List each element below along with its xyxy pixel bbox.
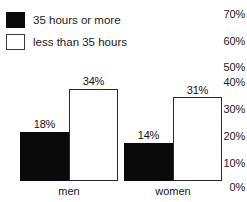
legend-label-35-hours-or-more: 35 hours or more [33, 14, 121, 27]
y-tick-60: 60% [211, 35, 245, 47]
bar-chart-figure: 70% 60% 50% 40% 30% 20% 10% 0% 18% 34% 1… [0, 0, 247, 202]
top-edge-artifact [0, 0, 247, 5]
bar-value-women-dark: 14% [124, 129, 173, 141]
legend-item-less-than-35-hours: less than 35 hours [6, 31, 196, 53]
bar-value-women-light: 31% [173, 84, 222, 96]
bar-men-less-than-35-hours [69, 89, 118, 181]
legend: 35 hours or more less than 35 hours [6, 9, 196, 53]
legend-label-less-than-35-hours: less than 35 hours [33, 36, 127, 49]
y-tick-70: 70% [211, 8, 245, 20]
bar-men-35-hours-or-more [20, 132, 69, 181]
bar-value-men-dark: 18% [20, 118, 69, 130]
bar-value-men-light: 34% [69, 75, 118, 87]
y-tick-50: 50% [211, 61, 245, 73]
x-label-women: women [124, 185, 222, 198]
legend-swatch-dark-icon [6, 12, 25, 28]
legend-swatch-light-icon [6, 34, 25, 50]
legend-item-35-hours-or-more: 35 hours or more [6, 9, 196, 31]
bar-women-less-than-35-hours [173, 97, 222, 181]
x-label-men: men [20, 185, 118, 198]
bar-women-35-hours-or-more [124, 143, 173, 181]
